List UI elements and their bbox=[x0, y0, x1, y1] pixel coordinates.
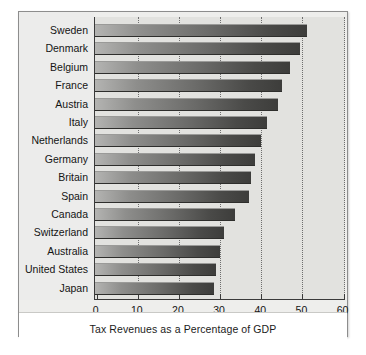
category-label-switzerland: Switzerland bbox=[0, 226, 88, 239]
bar-rows bbox=[95, 17, 345, 299]
bar-row bbox=[95, 116, 346, 129]
category-label-germany: Germany bbox=[0, 153, 88, 166]
bar-sweden bbox=[95, 24, 307, 37]
bar-row bbox=[95, 226, 346, 239]
bar-germany bbox=[95, 153, 255, 166]
bar-row bbox=[95, 98, 346, 111]
bar-row bbox=[95, 190, 346, 203]
category-label-belgium: Belgium bbox=[0, 61, 88, 74]
plot-area bbox=[94, 17, 345, 300]
x-axis-title: Tax Revenues as a Percentage of GDP bbox=[19, 323, 347, 335]
category-label-spain: Spain bbox=[0, 190, 88, 203]
bar-switzerland bbox=[95, 226, 224, 239]
bar-row bbox=[95, 245, 346, 258]
bar-row bbox=[95, 134, 346, 147]
bar-row bbox=[95, 24, 346, 37]
bar-netherlands bbox=[95, 134, 261, 147]
category-label-united-states: United States bbox=[0, 263, 88, 276]
bar-spain bbox=[95, 190, 249, 203]
bar-row bbox=[95, 79, 346, 92]
bar-row bbox=[95, 171, 346, 184]
bar-row bbox=[95, 153, 346, 166]
bar-austria bbox=[95, 98, 278, 111]
category-label-italy: Italy bbox=[0, 116, 88, 129]
bar-row bbox=[95, 42, 346, 55]
bar-row bbox=[95, 208, 346, 221]
bar-australia bbox=[95, 245, 220, 258]
bar-row bbox=[95, 282, 346, 295]
bar-japan bbox=[95, 282, 214, 295]
bar-row bbox=[95, 61, 346, 74]
category-label-canada: Canada bbox=[0, 208, 88, 221]
category-label-france: France bbox=[0, 79, 88, 92]
category-label-denmark: Denmark bbox=[0, 42, 88, 55]
bar-denmark bbox=[95, 42, 300, 55]
category-label-netherlands: Netherlands bbox=[0, 134, 88, 147]
chart-frame: SwedenDenmarkBelgiumFranceAustriaItalyNe… bbox=[18, 11, 348, 337]
caption-band: Tax Revenues as a Percentage of GDP bbox=[19, 312, 347, 349]
category-label-japan: Japan bbox=[0, 282, 88, 295]
bar-britain bbox=[95, 171, 251, 184]
bar-france bbox=[95, 79, 282, 92]
category-label-australia: Australia bbox=[0, 245, 88, 258]
chart-figure: SwedenDenmarkBelgiumFranceAustriaItalyNe… bbox=[0, 0, 366, 355]
bar-row bbox=[95, 263, 346, 276]
bar-belgium bbox=[95, 61, 290, 74]
category-label-sweden: Sweden bbox=[0, 24, 88, 37]
bar-canada bbox=[95, 208, 235, 221]
bar-italy bbox=[95, 116, 267, 129]
category-label-britain: Britain bbox=[0, 171, 88, 184]
category-label-austria: Austria bbox=[0, 98, 88, 111]
bar-united-states bbox=[95, 263, 216, 276]
